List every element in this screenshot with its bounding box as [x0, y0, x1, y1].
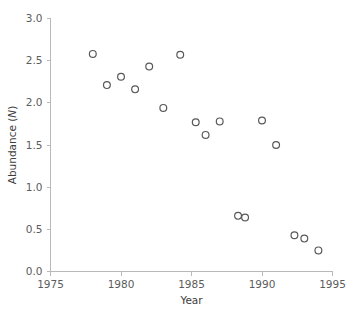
y-tick-label: 0.5: [26, 223, 43, 235]
data-point: [291, 232, 298, 239]
y-tick-label: 3.0: [26, 12, 43, 24]
data-point: [177, 51, 184, 58]
data-point: [259, 117, 266, 124]
data-point: [301, 235, 308, 242]
y-axis-title-symbol: N: [6, 110, 18, 118]
x-tick-label: 1975: [37, 278, 64, 290]
scatter-plot-figure: 0.00.51.01.52.02.53.0 197519801985199019…: [0, 0, 350, 318]
abundance-year-scatter-chart: 0.00.51.01.52.02.53.0 197519801985199019…: [0, 0, 350, 318]
data-point: [242, 214, 249, 221]
y-axis-group: 0.00.51.01.52.02.53.0: [26, 12, 51, 277]
y-tick-label: 0.0: [26, 265, 43, 277]
x-tick-label: 1985: [178, 278, 205, 290]
data-point: [118, 73, 125, 80]
data-point: [132, 86, 139, 93]
data-point: [160, 104, 167, 111]
data-point: [192, 119, 199, 126]
y-axis-title: Abundance (N): [6, 106, 18, 185]
y-tick-label: 1.0: [26, 181, 43, 193]
x-tick-label: 1995: [319, 278, 346, 290]
y-axis-title-paren: ): [6, 106, 18, 110]
data-point: [235, 212, 242, 219]
data-point: [315, 247, 322, 254]
data-point: [202, 131, 209, 138]
y-tick-label: 2.5: [26, 54, 43, 66]
y-axis-title-text: Abundance (: [6, 118, 18, 185]
x-axis-title: Year: [179, 294, 203, 306]
y-axis-ticks: 0.00.51.01.52.02.53.0: [26, 12, 51, 277]
data-point: [146, 63, 153, 70]
y-tick-label: 1.5: [26, 139, 43, 151]
data-point: [89, 51, 96, 58]
data-points-group: [89, 51, 321, 254]
x-axis-group: 19751980198519901995: [37, 272, 346, 290]
y-tick-label: 2.0: [26, 96, 43, 108]
x-axis-ticks: 19751980198519901995: [37, 272, 346, 290]
x-tick-label: 1990: [249, 278, 276, 290]
data-point: [273, 142, 280, 149]
data-point: [104, 82, 111, 89]
data-point: [216, 118, 223, 125]
x-tick-label: 1980: [108, 278, 135, 290]
